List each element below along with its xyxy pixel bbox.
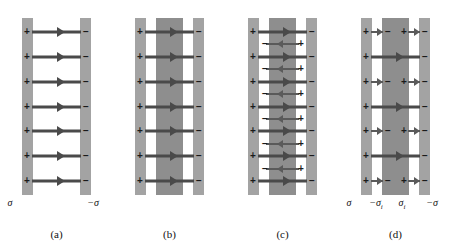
field-line-head <box>57 176 65 186</box>
plate-charge-plus: + <box>361 27 371 37</box>
sigma-label: σi <box>399 197 406 211</box>
field-line-head <box>170 52 178 62</box>
plate-charge-plus: + <box>135 27 145 37</box>
sigma-label: −σ <box>426 197 438 208</box>
induced-field-arrow <box>266 138 299 150</box>
field-line-head <box>283 126 291 136</box>
plate-charge-plus: + <box>135 77 145 87</box>
induced-charge-plus: + <box>296 64 306 74</box>
field-line <box>32 26 81 38</box>
field-line-head <box>57 102 65 112</box>
field-line <box>145 125 194 137</box>
induced-field-arrow-head <box>277 115 283 123</box>
induced-field-arrow <box>266 38 299 50</box>
sigma-label: σ <box>347 197 352 208</box>
plate-charge-minus: − <box>307 27 317 37</box>
plate-charge-minus: − <box>420 52 430 62</box>
field-line <box>258 101 307 113</box>
plate-charge-plus: + <box>248 77 258 87</box>
induced-charge-minus: − <box>260 89 270 99</box>
bound-charge-minus: − <box>383 176 393 186</box>
panel-caption: (a) <box>0 228 113 240</box>
field-line <box>145 150 194 162</box>
field-arrow-left-gap <box>371 26 383 38</box>
induced-charge-plus: + <box>296 89 306 99</box>
induced-field-arrow-head <box>277 140 283 148</box>
field-line-head <box>170 102 178 112</box>
field-line-head <box>57 27 65 37</box>
field-line-head <box>283 151 291 161</box>
plate-charge-plus: + <box>22 151 32 161</box>
plate-charge-minus: − <box>194 151 204 161</box>
field-line <box>32 125 81 137</box>
plate-charge-minus: − <box>194 102 204 112</box>
induced-charge-minus: − <box>260 164 270 174</box>
field-arrow-right-gap <box>408 175 420 187</box>
induced-charge-plus: + <box>296 39 306 49</box>
field-arrow-right-gap <box>408 76 420 88</box>
field-line <box>32 101 81 113</box>
field-line-head <box>283 77 291 87</box>
plate-charge-plus: + <box>135 52 145 62</box>
plate-charge-minus: − <box>307 102 317 112</box>
plate-charge-minus: − <box>420 102 430 112</box>
plate-charge-plus: + <box>135 102 145 112</box>
field-line-head <box>396 102 404 112</box>
plate-charge-plus: + <box>22 52 32 62</box>
panel-d-stage: −++−+−−++−+−−++−+−−++− <box>339 18 452 195</box>
induced-field-arrow <box>266 113 299 125</box>
plate-charge-minus: − <box>307 176 317 186</box>
field-line-head <box>57 77 65 87</box>
field-line-head <box>283 52 291 62</box>
field-line-head <box>170 126 178 136</box>
field-line-head <box>57 126 65 136</box>
panel-caption: (b) <box>113 228 226 240</box>
sigma-label: −σ <box>87 197 99 208</box>
plate-charge-plus: + <box>22 102 32 112</box>
field-arrow-right-gap <box>408 26 420 38</box>
field-line <box>145 76 194 88</box>
field-line <box>145 51 194 63</box>
plate-charge-minus: − <box>194 27 204 37</box>
induced-field-arrow <box>266 63 299 75</box>
field-line <box>145 175 194 187</box>
bound-charge-minus: − <box>383 126 393 136</box>
field-line-head <box>170 77 178 87</box>
induced-field-arrow <box>266 163 299 175</box>
plate-charge-plus: + <box>361 176 371 186</box>
plate-charge-minus: − <box>81 102 91 112</box>
induced-field-arrow-head <box>277 65 283 73</box>
panel-c: +−+−+−+−+−+−+−−+−+−+−+−+−+(c) <box>226 0 339 252</box>
plate-charge-plus: + <box>248 52 258 62</box>
field-line-head <box>396 52 404 62</box>
field-line <box>32 76 81 88</box>
panel-a: +−+−+−+−+−+−+−σ−σ(a) <box>0 0 113 252</box>
bound-charge-plus: + <box>399 77 409 87</box>
plate-charge-plus: + <box>22 126 32 136</box>
plate-charge-minus: − <box>420 27 430 37</box>
field-arrow-right-gap <box>408 125 420 137</box>
plate-charge-plus: + <box>22 77 32 87</box>
plate-charge-minus: − <box>194 52 204 62</box>
plate-charge-plus: + <box>361 52 371 62</box>
field-arrow-left-gap <box>371 76 383 88</box>
induced-field-arrow <box>266 88 299 100</box>
field-line <box>371 51 420 63</box>
plate-charge-plus: + <box>248 27 258 37</box>
bound-charge-plus: + <box>399 126 409 136</box>
bound-charge-minus: − <box>383 27 393 37</box>
induced-field-arrow-head <box>277 40 283 48</box>
plate-charge-minus: − <box>81 77 91 87</box>
field-line <box>258 76 307 88</box>
plate-charge-minus: − <box>307 77 317 87</box>
field-line <box>145 26 194 38</box>
plate-charge-minus: − <box>194 176 204 186</box>
plate-charge-plus: + <box>248 126 258 136</box>
sigma-label: σ <box>8 197 13 208</box>
field-line-head <box>170 27 178 37</box>
field-line <box>258 51 307 63</box>
plate-charge-minus: − <box>420 77 430 87</box>
plate-charge-plus: + <box>361 77 371 87</box>
field-line <box>258 150 307 162</box>
induced-field-arrow-head <box>277 90 283 98</box>
